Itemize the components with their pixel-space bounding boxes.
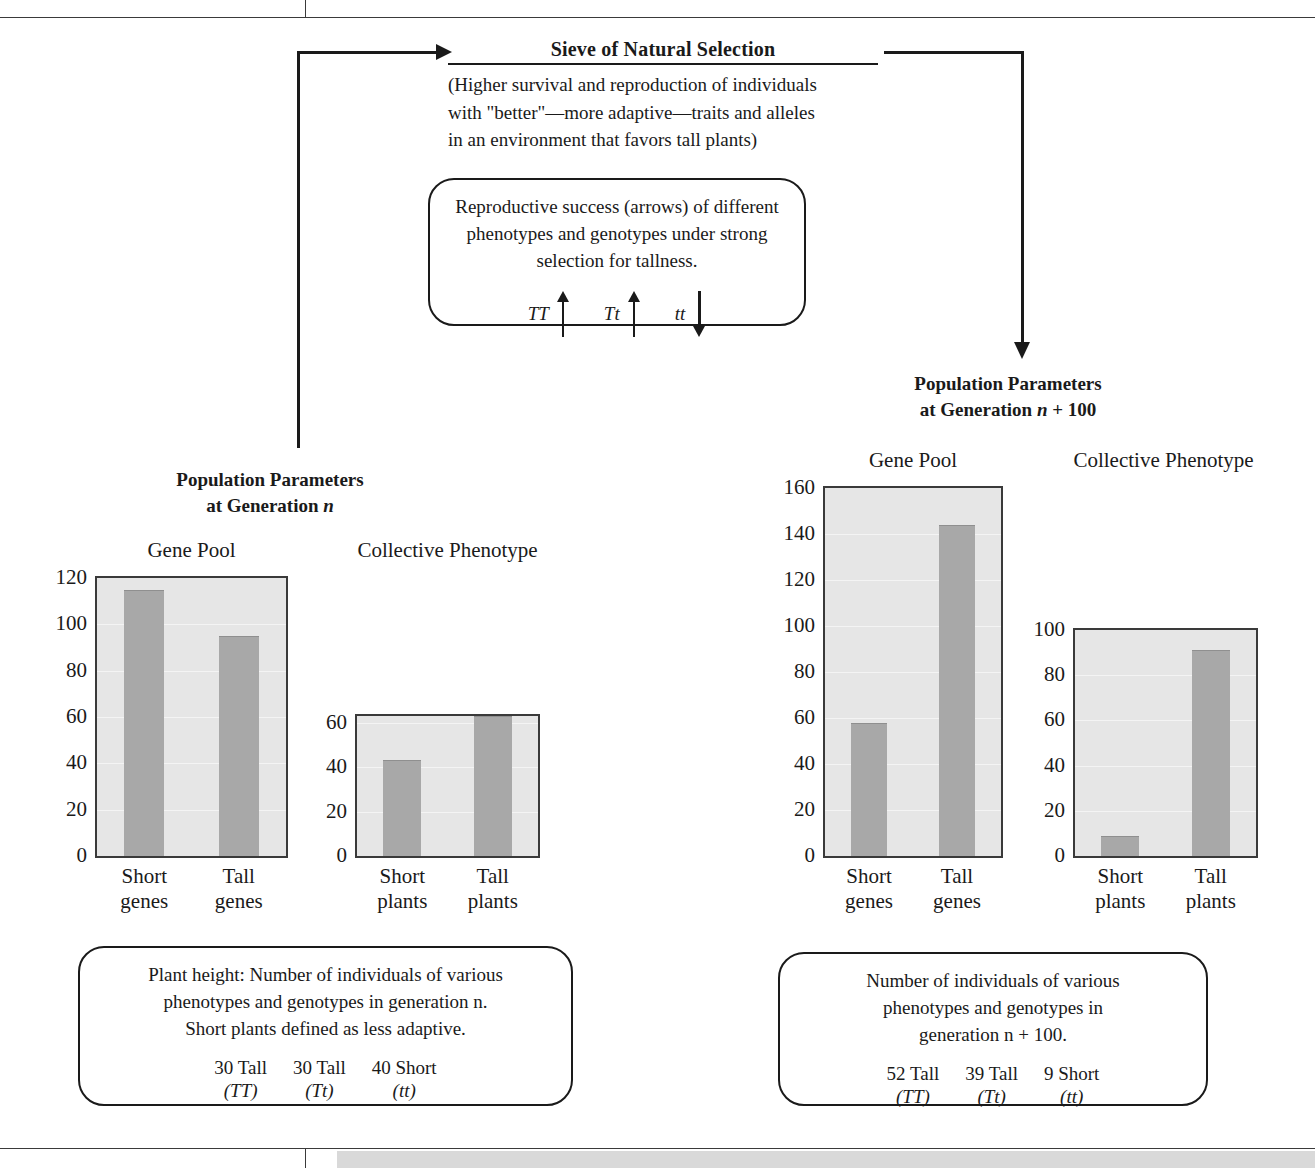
group-title-line2: at Generation n	[105, 493, 435, 519]
feedback-arrow-horizontal-right	[884, 51, 1024, 54]
sieve-header: Sieve of Natural Selection (Higher survi…	[448, 38, 878, 154]
y-axis-tick-label: 20	[761, 797, 815, 822]
bar	[1192, 650, 1230, 856]
note-text-generation-n: Plant height: Number of individuals of v…	[80, 948, 571, 1043]
genotype-count-tt-rec: 9 Short (tt)	[1044, 1063, 1099, 1108]
y-axis-tick-label: 0	[293, 843, 347, 868]
bar	[939, 525, 976, 856]
genotype-label-tt-het: Tt	[604, 303, 620, 325]
x-axis-category-label: Short genes	[825, 864, 913, 914]
chart-title: Collective Phenotype	[330, 538, 565, 563]
y-axis-tick-label: 80	[1011, 662, 1065, 687]
genotype-arrow-tt: TT	[528, 291, 570, 337]
genotype-code: (Tt)	[293, 1080, 346, 1102]
chart-title: Gene Pool	[823, 448, 1003, 473]
y-axis-tick-label: 20	[293, 799, 347, 824]
y-axis-tick-label: 80	[33, 658, 87, 683]
genotype-count-tt-het: 39 Tall (Tt)	[965, 1063, 1018, 1108]
feedback-arrow-horizontal-left	[297, 51, 439, 54]
down-arrow-icon	[692, 291, 706, 337]
note-box-generation-n: Plant height: Number of individuals of v…	[78, 946, 573, 1106]
bar	[851, 723, 888, 856]
x-axis-category-label: Short genes	[97, 864, 192, 914]
y-axis-tick-label: 100	[33, 611, 87, 636]
chart-title: Gene Pool	[95, 538, 288, 563]
feedback-arrow-vertical-left	[297, 52, 300, 448]
genotype-count-row-gen-n-100: 52 Tall (TT) 39 Tall (Tt) 9 Short (tt)	[780, 1063, 1206, 1108]
genotype-count-tt: 30 Tall (TT)	[214, 1057, 267, 1102]
plot-area	[95, 576, 288, 858]
genotype-count-value: 39 Tall	[965, 1063, 1018, 1085]
x-axis-category-label: Tall genes	[192, 864, 287, 914]
y-axis-tick-label: 160	[761, 475, 815, 500]
reproductive-success-box: Reproductive success (arrows) of differe…	[428, 178, 806, 326]
bar	[474, 716, 512, 856]
page-rule-bottom	[0, 1148, 1315, 1149]
group-title-line2: at Generation n + 100	[838, 397, 1178, 423]
reproductive-success-text: Reproductive success (arrows) of differe…	[430, 180, 804, 275]
plot-area	[823, 486, 1003, 858]
page-footer-band	[337, 1151, 1315, 1168]
note-text-generation-n-100: Number of individuals of various phenoty…	[780, 954, 1206, 1049]
x-axis-category-label: Short plants	[357, 864, 448, 914]
y-axis-tick-label: 140	[761, 521, 815, 546]
y-axis-tick-label: 40	[761, 751, 815, 776]
y-axis-tick-label: 120	[761, 567, 815, 592]
sieve-subtitle: (Higher survival and reproduction of ind…	[448, 71, 878, 154]
x-axis-category-label: Tall plants	[448, 864, 539, 914]
x-axis-category-label: Tall plants	[1166, 864, 1257, 914]
up-arrow-icon	[627, 291, 641, 337]
bar	[1101, 836, 1139, 856]
note-box-generation-n-100: Number of individuals of various phenoty…	[778, 952, 1208, 1106]
y-axis-tick-label: 120	[33, 565, 87, 590]
genotype-code: (TT)	[214, 1080, 267, 1102]
plot-area	[355, 714, 540, 858]
group-title-line1: Population Parameters	[105, 467, 435, 493]
bar	[124, 590, 164, 856]
page-rule-top	[0, 17, 1315, 18]
sieve-title: Sieve of Natural Selection	[448, 38, 878, 65]
page-tick-top	[305, 0, 306, 17]
page-tick-bottom	[305, 1149, 306, 1168]
genotype-arrow-row: TT Tt tt	[430, 291, 804, 337]
y-axis-tick-label: 80	[761, 659, 815, 684]
y-axis-tick-label: 20	[1011, 798, 1065, 823]
y-axis-tick-label: 60	[1011, 707, 1065, 732]
y-axis-tick-label: 0	[761, 843, 815, 868]
y-axis-tick-label: 40	[1011, 753, 1065, 778]
genotype-count-value: 9 Short	[1044, 1063, 1099, 1085]
y-axis-tick-label: 40	[33, 750, 87, 775]
y-axis-tick-label: 100	[761, 613, 815, 638]
y-axis-tick-label: 20	[33, 797, 87, 822]
y-axis-tick-label: 0	[33, 843, 87, 868]
bar	[219, 636, 259, 856]
genotype-code: (TT)	[887, 1086, 940, 1108]
bar	[383, 760, 421, 856]
genotype-count-value: 30 Tall	[214, 1057, 267, 1079]
x-axis-category-label: Short plants	[1075, 864, 1166, 914]
plot-area	[1073, 628, 1258, 858]
genotype-code: (tt)	[1044, 1086, 1099, 1108]
y-axis-tick-label: 100	[1011, 617, 1065, 642]
y-axis-tick-label: 40	[293, 754, 347, 779]
y-axis-tick-label: 60	[293, 710, 347, 735]
genotype-label-tt: TT	[528, 303, 549, 325]
feedback-arrow-vertical-right	[1021, 51, 1024, 345]
diagram-page: Sieve of Natural Selection (Higher survi…	[0, 0, 1315, 1168]
genotype-count-tt-het: 30 Tall (Tt)	[293, 1057, 346, 1102]
y-axis-tick-label: 60	[33, 704, 87, 729]
up-arrow-icon	[556, 291, 570, 337]
x-axis-category-label: Tall genes	[913, 864, 1001, 914]
genotype-code: (Tt)	[965, 1086, 1018, 1108]
y-axis-tick-label: 0	[1011, 843, 1065, 868]
genotype-count-tt-rec: 40 Short (tt)	[372, 1057, 437, 1102]
genotype-count-value: 40 Short	[372, 1057, 437, 1079]
genotype-arrow-tt-rec: tt	[675, 291, 707, 337]
genotype-arrow-tt-het: Tt	[604, 291, 641, 337]
y-axis-tick-label: 60	[761, 705, 815, 730]
genotype-count-value: 30 Tall	[293, 1057, 346, 1079]
group-title-generation-n: Population Parameters at Generation n	[105, 467, 435, 518]
genotype-count-tt: 52 Tall (TT)	[887, 1063, 940, 1108]
group-title-line1: Population Parameters	[838, 371, 1178, 397]
genotype-count-value: 52 Tall	[887, 1063, 940, 1085]
